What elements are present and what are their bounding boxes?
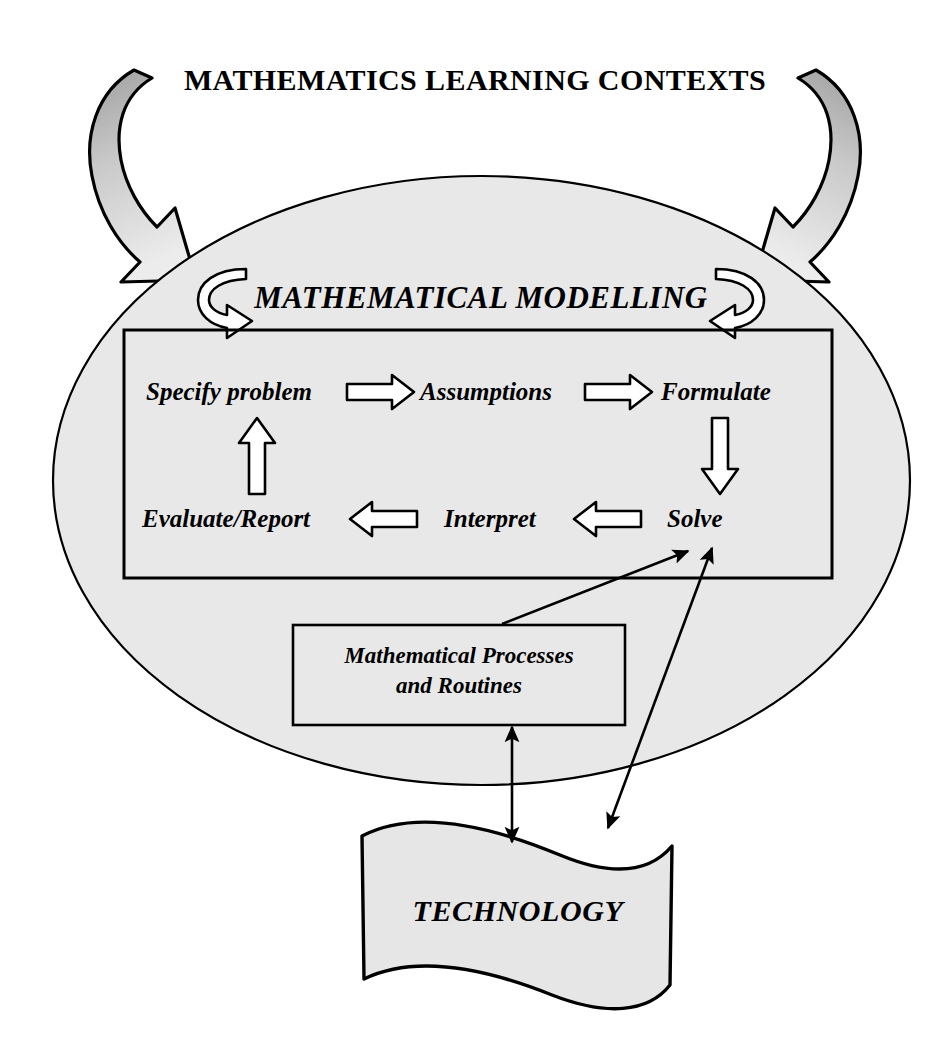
processes-box-line1: Mathematical Processes <box>343 643 573 668</box>
cycle-stage-interpret: Interpret <box>443 505 537 532</box>
mathematics-learning-contexts-diagram: MATHEMATICS LEARNING CONTEXTS MATHEMATIC… <box>0 0 950 1060</box>
diagram-canvas: MATHEMATICS LEARNING CONTEXTS MATHEMATIC… <box>0 0 950 1060</box>
modelling-heading: MATHEMATICAL MODELLING <box>253 280 708 315</box>
processes-box-line2: and Routines <box>396 673 522 698</box>
cycle-stage-evaluate-report: Evaluate/Report <box>141 505 311 532</box>
cycle-stage-assumptions: Assumptions <box>418 378 552 405</box>
technology-label: TECHNOLOGY <box>413 894 626 927</box>
context-arrow-right <box>754 70 860 282</box>
technology-banner: TECHNOLOGY <box>362 822 672 1009</box>
page-title: MATHEMATICS LEARNING CONTEXTS <box>184 63 766 96</box>
cycle-stage-specify-problem: Specify problem <box>146 378 312 405</box>
context-arrow-left <box>90 70 196 282</box>
cycle-stage-formulate: Formulate <box>660 378 771 405</box>
cycle-stage-solve: Solve <box>667 505 723 532</box>
